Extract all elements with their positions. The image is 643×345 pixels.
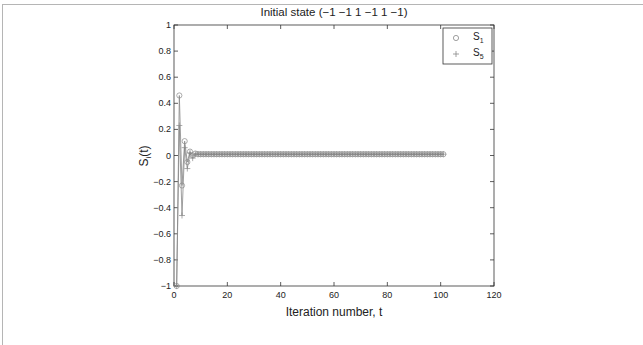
x-tick-label: 120 [486, 290, 501, 300]
x-tick-label: 100 [433, 290, 448, 300]
x-tick-label: 60 [329, 290, 339, 300]
legend: S1S5 [443, 28, 492, 64]
x-tick-label: 40 [276, 290, 286, 300]
y-tick-label: −0.6 [153, 229, 171, 239]
x-axis-label: Iteration number, t [286, 305, 383, 319]
y-tick-label: −0.4 [153, 203, 171, 213]
chart-title: Initial state (−1 −1 1 −1 1 −1) [260, 6, 407, 18]
x-tick-label: 80 [382, 290, 392, 300]
y-tick-label: −1 [161, 281, 171, 291]
legend-box [443, 28, 492, 64]
y-axis-label: Si(t) [137, 145, 153, 166]
x-tick-label: 20 [222, 290, 232, 300]
y-tick-label: 0 [166, 151, 171, 161]
y-tick-label: −0.2 [153, 177, 171, 187]
y-tick-label: 0.4 [158, 98, 171, 108]
svg-text:Si(t): Si(t) [137, 145, 153, 166]
y-tick-label: −0.8 [153, 255, 171, 265]
y-tick-label: 0.2 [158, 124, 171, 134]
y-tick-label: 1 [166, 20, 171, 30]
x-tick-label: 0 [171, 290, 176, 300]
y-tick-label: 0.8 [158, 46, 171, 56]
y-tick-label: 0.6 [158, 72, 171, 82]
